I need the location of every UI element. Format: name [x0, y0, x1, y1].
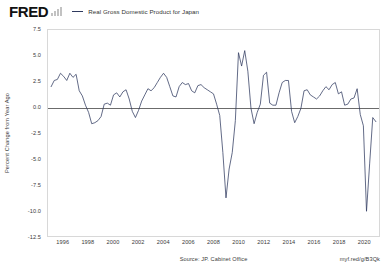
x-axis-tick-label: 2006	[182, 239, 195, 245]
x-axis-tick-label: 2016	[308, 239, 321, 245]
y-axis-title: Percent Change from Year Ago	[2, 29, 12, 237]
bar-chart-icon	[51, 7, 63, 16]
gdp-line-series	[48, 30, 379, 236]
y-axis-tick-label: 0.0	[33, 104, 41, 110]
legend-line-swatch-icon	[72, 11, 83, 12]
legend-series-label: Real Gross Domestic Product for Japan	[88, 8, 199, 15]
source-note: Source: JP. Cabinet Office	[180, 256, 248, 262]
x-axis-tick-label: 2004	[157, 239, 170, 245]
x-axis-tick-label: 2008	[207, 239, 220, 245]
y-axis-tick-label: -12.5	[28, 234, 41, 240]
y-axis-tick-label: 7.5	[33, 26, 41, 32]
chart-legend: Real Gross Domestic Product for Japan	[72, 8, 199, 15]
y-axis-tick-label: -2.5	[31, 130, 41, 136]
y-axis-tick-label: 2.5	[33, 78, 41, 84]
x-axis-tick-label: 2012	[257, 239, 270, 245]
plot-area	[47, 29, 380, 237]
x-axis: 1996199820002002200420062008201020122014…	[47, 239, 380, 249]
chart-footer: Source: JP. Cabinet Office myf.red/g/B3Q…	[47, 256, 380, 268]
y-axis-tick-label: 5.0	[33, 52, 41, 58]
x-axis-tick-label: 2000	[107, 239, 120, 245]
x-axis-tick-label: 2020	[358, 239, 371, 245]
x-axis-tick-label: 2002	[132, 239, 145, 245]
fred-chart-figure: FRED Real Gross Domestic Product for Jap…	[0, 0, 392, 279]
chart-header: FRED Real Gross Domestic Product for Jap…	[0, 0, 392, 22]
x-axis-tick-label: 2010	[232, 239, 245, 245]
x-axis-tick-label: 2018	[333, 239, 346, 245]
fred-short-url[interactable]: myf.red/g/B3Qk	[340, 256, 380, 262]
x-axis-tick-label: 1998	[81, 239, 94, 245]
x-axis-tick-label: 2014	[282, 239, 295, 245]
y-axis-tick-label: -5.0	[31, 156, 41, 162]
fred-logo: FRED	[9, 4, 48, 19]
y-axis-tick-label: -10.0	[28, 208, 41, 214]
y-axis-tick-label: -7.5	[31, 182, 41, 188]
x-axis-tick-label: 1996	[56, 239, 69, 245]
